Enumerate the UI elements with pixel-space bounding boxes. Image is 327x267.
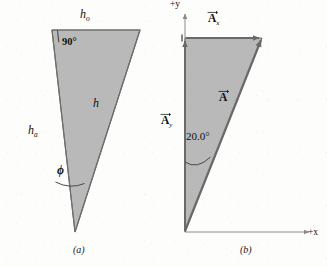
label-x-axis: +x (308, 228, 318, 238)
label-hypotenuse-a: h (93, 97, 99, 109)
label-vector-ax-sub: x (216, 19, 219, 27)
caption-panel-b: (b) (240, 245, 252, 255)
label-adjacent-side-a-sub: a (34, 130, 38, 139)
label-vector-ax-glyph: A (208, 13, 216, 25)
figure-container: ho 90° h ha ϕ (a) +y +x Ax Ay (0, 0, 327, 267)
caption-panel-a: (a) (73, 245, 85, 255)
label-adjacent-side-a: ha (28, 124, 38, 139)
label-angle-phi-a: ϕ (57, 164, 64, 176)
panel-b-graphics (182, 14, 309, 232)
label-opposite-side-a-sub: o (86, 14, 90, 23)
panel-a-graphics (52, 30, 140, 232)
label-vector-ay: Ay (161, 115, 172, 129)
label-opposite-side-a: ho (80, 8, 90, 23)
label-angle-20deg: 20.0° (186, 131, 210, 142)
label-vector-ay-base: A (161, 114, 169, 126)
label-vector-ax-base: A (208, 12, 216, 24)
label-right-angle-a: 90° (62, 37, 77, 48)
figure-graphics (0, 0, 327, 267)
triangle-shape-a (52, 30, 140, 232)
label-vector-a: A (219, 92, 227, 104)
label-vector-a-base: A (219, 91, 227, 103)
label-vector-ay-glyph: A (161, 115, 169, 127)
label-vector-ax: Ax (208, 13, 219, 27)
label-vector-ay-sub: y (169, 121, 172, 129)
label-y-axis: +y (170, 0, 180, 10)
label-vector-a-glyph: A (219, 92, 227, 104)
